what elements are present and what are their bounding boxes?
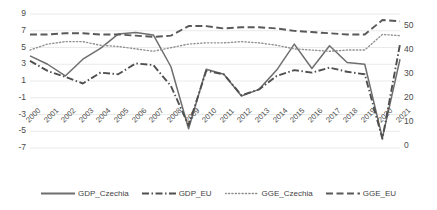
legend-item-gdp_czechia[interactable]: GDP_Czechia <box>41 189 129 198</box>
chart-plot-area <box>0 0 437 210</box>
right-axis-tick: 0 <box>404 141 424 150</box>
right-axis-tick: 40 <box>404 45 424 54</box>
legend-item-gdp_eu[interactable]: GDP_EU <box>142 189 212 198</box>
right-axis-tick: 10 <box>404 117 424 126</box>
series-line-gge_czechia <box>30 34 400 51</box>
left-axis-tick: 5 <box>8 43 26 52</box>
right-axis-tick: 50 <box>404 21 424 30</box>
left-axis-tick: -7 <box>8 143 26 152</box>
legend-item-gge_eu[interactable]: GGE_EU <box>326 189 396 198</box>
left-axis-tick: -5 <box>8 126 26 135</box>
line-key-dashed <box>326 189 360 198</box>
left-axis-tick: 9 <box>8 9 26 18</box>
line-key-solid <box>41 189 75 198</box>
line-key-dotted <box>225 189 259 198</box>
left-axis-tick: 7 <box>8 26 26 35</box>
line-key-dashdot <box>142 189 176 198</box>
chart-container: 97531-1-3-5-7 50403020100 20002001200220… <box>0 0 437 210</box>
left-axis-tick: 3 <box>8 59 26 68</box>
left-axis-tick: -1 <box>8 93 26 102</box>
legend-label: GGE_Czechia <box>262 189 313 198</box>
series-line-gge_eu <box>30 20 400 37</box>
legend-label: GGE_EU <box>363 189 396 198</box>
right-axis-tick: 20 <box>404 93 424 102</box>
left-axis-tick: 1 <box>8 76 26 85</box>
chart-legend: GDP_CzechiaGDP_EUGGE_CzechiaGGE_EU <box>0 182 437 204</box>
legend-label: GDP_EU <box>179 189 212 198</box>
right-axis-tick: 30 <box>404 69 424 78</box>
legend-label: GDP_Czechia <box>78 189 129 198</box>
legend-item-gge_czechia[interactable]: GGE_Czechia <box>225 189 313 198</box>
